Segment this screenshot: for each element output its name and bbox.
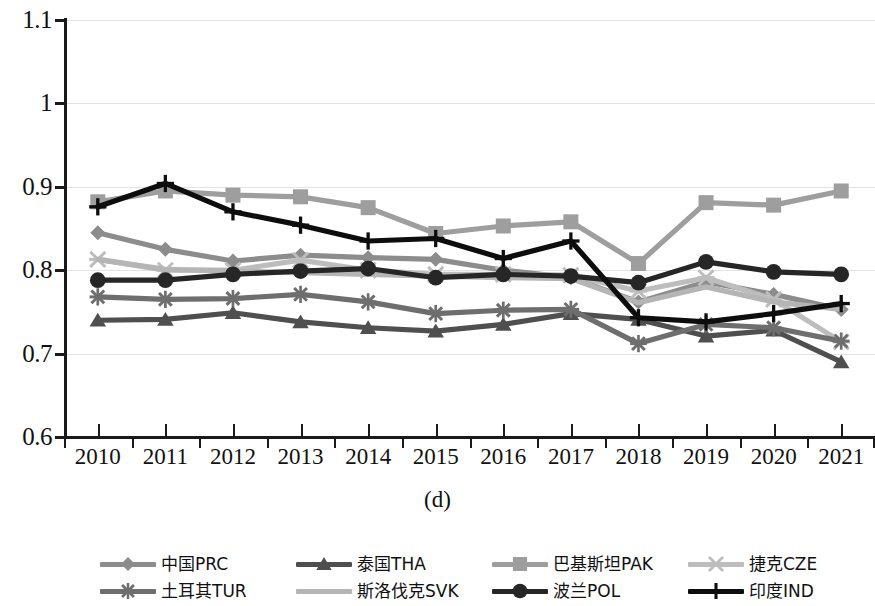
data-point-triangle: [316, 557, 331, 570]
legend-label: 捷克CZE: [749, 556, 817, 573]
legend-label: 泰国THA: [357, 556, 426, 573]
data-point-asterisk: [90, 288, 107, 305]
legend-item[interactable]: 中国PRC: [100, 552, 228, 576]
data-point-square: [225, 188, 240, 203]
legend-label: 土耳其TUR: [161, 583, 247, 600]
legend-swatch-square-icon: [492, 556, 548, 572]
series-印度IND: [89, 175, 850, 331]
series-layer: [0, 0, 875, 450]
data-point-square: [513, 557, 527, 571]
data-point-circle: [513, 584, 528, 599]
legend-swatch-triangle-icon: [296, 556, 352, 572]
x-tick-label: 2019: [683, 444, 729, 470]
data-point-diamond: [90, 225, 105, 240]
data-point-circle: [698, 254, 714, 270]
data-point-square: [699, 195, 714, 210]
data-point-circle: [631, 275, 647, 291]
x-tick-label: 2013: [278, 444, 324, 470]
legend-swatch-star-icon: [688, 556, 744, 572]
data-point-square: [361, 200, 376, 215]
legend-label: 印度IND: [749, 583, 814, 600]
legend-item[interactable]: 捷克CZE: [688, 552, 817, 576]
data-point-asterisk: [292, 286, 309, 303]
plot-area: 0.60.70.80.911.1 20102011201220132014201…: [0, 0, 875, 450]
x-tick-label: 2016: [480, 444, 526, 470]
legend-swatch-plus-icon: [688, 583, 744, 599]
data-point-circle: [225, 266, 241, 282]
data-point-asterisk: [833, 332, 850, 349]
x-axis-labels: 2010201120122013201420152016201720182019…: [0, 444, 875, 484]
data-point-diamond: [428, 252, 443, 267]
legend-item[interactable]: 土耳其TUR: [100, 579, 247, 603]
data-point-asterisk: [157, 291, 174, 308]
x-tick-label: 2020: [751, 444, 797, 470]
series-泰国THA: [90, 305, 850, 368]
legend-label: 中国PRC: [161, 556, 228, 573]
data-point-plus: [360, 232, 377, 249]
data-point-square: [563, 214, 578, 229]
data-point-star: [708, 557, 724, 571]
figure-panel-d: 0.60.70.80.911.1 20102011201220132014201…: [0, 0, 875, 606]
x-tick-label: 2015: [413, 444, 459, 470]
data-point-plus: [495, 250, 512, 267]
data-point-circle: [495, 266, 511, 282]
data-point-circle: [293, 263, 309, 279]
data-point-plus: [708, 583, 724, 599]
legend-swatch-line-icon: [296, 583, 352, 599]
data-point-square: [293, 189, 308, 204]
data-point-square: [496, 218, 511, 233]
data-point-plus: [224, 203, 241, 220]
x-tick-label: 2010: [75, 444, 121, 470]
legend-item[interactable]: 印度IND: [688, 579, 814, 603]
data-point-asterisk: [427, 305, 444, 322]
legend-swatch-circle-icon: [492, 583, 548, 599]
x-tick-label: 2014: [345, 444, 391, 470]
data-point-asterisk: [563, 301, 580, 318]
legend-label: 波兰POL: [553, 583, 620, 600]
chart-legend: 中国PRC泰国THA巴基斯坦PAK捷克CZE土耳其TUR斯洛伐克SVK波兰POL…: [100, 552, 875, 606]
x-tick-label: 2018: [615, 444, 661, 470]
x-tick-label: 2011: [143, 444, 188, 470]
data-point-asterisk: [495, 302, 512, 319]
x-tick-label: 2012: [210, 444, 256, 470]
data-point-square: [766, 198, 781, 213]
data-point-asterisk: [225, 290, 242, 307]
data-point-circle: [90, 272, 106, 288]
legend-item[interactable]: 斯洛伐克SVK: [296, 579, 459, 603]
data-point-circle: [360, 261, 376, 277]
data-point-square: [631, 256, 646, 271]
x-tick-label: 2017: [548, 444, 594, 470]
data-point-plus: [292, 217, 309, 234]
legend-label: 巴基斯坦PAK: [553, 556, 653, 573]
legend-swatch-diamond-icon: [100, 556, 156, 572]
figure-caption: (d): [0, 487, 875, 513]
data-point-asterisk: [360, 293, 377, 310]
data-point-circle: [766, 264, 782, 280]
data-point-circle: [428, 270, 444, 286]
data-point-square: [834, 183, 849, 198]
legend-item[interactable]: 波兰POL: [492, 579, 620, 603]
data-point-diamond: [121, 557, 135, 571]
data-point-asterisk: [630, 335, 647, 352]
data-point-circle: [833, 266, 849, 282]
data-point-circle: [158, 272, 174, 288]
x-tick-label: 2021: [818, 444, 864, 470]
data-point-asterisk: [120, 583, 135, 599]
legend-item[interactable]: 泰国THA: [296, 552, 426, 576]
data-point-diamond: [158, 242, 173, 257]
legend-item[interactable]: 巴基斯坦PAK: [492, 552, 653, 576]
data-point-circle: [563, 268, 579, 284]
legend-label: 斯洛伐克SVK: [357, 583, 459, 600]
legend-swatch-asterisk-icon: [100, 583, 156, 599]
